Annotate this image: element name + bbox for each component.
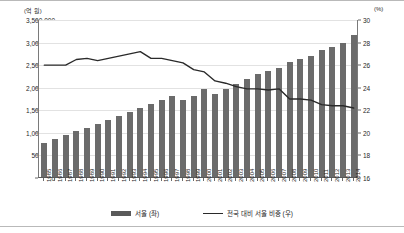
x-axis-tick-label: 2005 [259,169,265,182]
x-axis-tick-mark [75,178,76,181]
x-axis-tick-label: 2010 [313,169,319,182]
x-axis-tick-label: 1989 [89,169,95,182]
right-axis-tick-label: 22 [363,107,387,114]
x-axis-tick-label: 2006 [270,169,276,182]
right-axis-tick-label: 18 [363,152,387,159]
x-axis-tick-mark [86,178,87,181]
x-axis-tick-label: 2001 [217,169,223,182]
x-axis-tick-label: 1993 [131,169,137,182]
x-axis-tick-mark [278,178,279,181]
x-axis-tick-mark [65,178,66,181]
x-axis-tick-mark [129,178,130,181]
legend-bar-label: 서울 (좌) [135,208,159,218]
x-axis-tick-mark [161,178,162,181]
x-axis-tick-mark [182,178,183,181]
legend-item-bar: 서울 (좌) [111,208,159,218]
x-axis-tick-label: 2013 [345,169,351,182]
x-axis-tick-mark [193,178,194,181]
x-axis-tick-mark [299,178,300,181]
x-axis-tick-mark [150,178,151,181]
x-axis-tick-mark [310,178,311,181]
left-axis-unit-label: (억 원) [24,6,42,15]
x-axis-tick-label: 2012 [334,169,340,182]
legend-item-line: 전국 대비 서울 비중 (우) [203,208,293,218]
chart-legend: 서울 (좌) 전국 대비 서울 비중 (우) [0,206,404,220]
x-axis-tick-mark [342,178,343,181]
x-axis-tick-mark [331,178,332,181]
right-axis-tick-label: 30 [363,17,387,24]
x-axis-tick-label: 1985 [46,169,52,182]
x-axis-tick-label: 2008 [291,169,297,182]
x-axis-tick-label: 2000 [206,169,212,182]
x-axis-tick-label: 2014 [355,169,361,182]
x-axis-tick-mark [225,178,226,181]
x-axis-tick-label: 1988 [78,169,84,182]
x-axis-tick-label: 1986 [57,169,63,182]
x-axis-tick-label: 2007 [281,169,287,182]
x-axis-tick-mark [267,178,268,181]
x-axis-tick-mark [107,178,108,181]
legend-line-swatch-icon [203,213,223,214]
x-axis-tick-label: 2003 [238,169,244,182]
x-axis-tick-label: 1987 [67,169,73,182]
top-divider [0,0,404,1]
line-series [39,20,359,178]
x-axis-tick-label: 1997 [174,169,180,182]
x-axis-tick-label: 1999 [195,169,201,182]
x-axis-tick-label: 1990 [99,169,105,182]
x-axis-tick-label: 1996 [163,169,169,182]
chart-figure: (억 원) (%) 0500,0001,000,0001,500,0002,00… [0,0,404,233]
right-axis-tick-label: 26 [363,62,387,69]
x-axis-tick-mark [54,178,55,181]
plot-area [38,20,358,178]
right-axis-tick-label: 28 [363,39,387,46]
x-axis-tick-label: 2004 [249,169,255,182]
x-axis-tick-mark [246,178,247,181]
x-axis-tick-mark [321,178,322,181]
x-axis-tick-label: 1991 [110,169,116,182]
bottom-divider [0,226,404,227]
x-axis-tick-mark [214,178,215,181]
x-axis-tick-label: 2009 [302,169,308,182]
right-axis-tick-label: 20 [363,129,387,136]
x-axis-tick-mark [289,178,290,181]
x-axis-tick-mark [257,178,258,181]
x-axis-tick-mark [235,178,236,181]
right-axis-unit-label: (%) [374,6,383,12]
x-axis-tick-mark [97,178,98,181]
x-axis-tick-mark [118,178,119,181]
right-axis-tick-label: 24 [363,84,387,91]
x-axis-tick-label: 1994 [142,169,148,182]
x-axis-tick-label: 2011 [323,169,329,182]
legend-line-label: 전국 대비 서울 비중 (우) [227,208,293,218]
x-axis-tick-label: 2002 [227,169,233,182]
x-axis-tick-mark [203,178,204,181]
x-axis-tick-label: 1992 [121,169,127,182]
x-axis-tick-mark [43,178,44,181]
x-axis-tick-label: 1998 [185,169,191,182]
right-axis-tick-label: 16 [363,175,387,182]
x-axis-tick-mark [353,178,354,181]
x-axis-tick-mark [171,178,172,181]
legend-bar-swatch-icon [111,211,131,216]
x-axis-tick-mark [139,178,140,181]
x-axis-tick-label: 1995 [153,169,159,182]
